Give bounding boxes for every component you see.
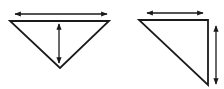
inverted-triangle-group — [10, 14, 109, 68]
right-triangle-group — [139, 13, 216, 85]
right-triangle — [139, 20, 208, 85]
triangle-diagram — [0, 0, 224, 89]
